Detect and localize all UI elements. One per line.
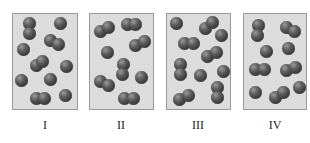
particle-sphere [59, 89, 72, 102]
particle-sphere [282, 42, 295, 55]
particle-sphere [187, 37, 200, 50]
particle-sphere [210, 46, 223, 59]
label-box-4: IV [255, 118, 295, 133]
particle-sphere [206, 16, 219, 29]
particle-sphere [277, 86, 290, 99]
particle-sphere [129, 18, 142, 31]
particle-sphere [289, 61, 302, 74]
particle-sphere [54, 17, 67, 30]
particle-sphere [101, 46, 114, 59]
particle-sphere [127, 92, 140, 105]
label-box-2: II [101, 118, 141, 133]
particle-sphere [217, 65, 230, 78]
particle-sphere [211, 91, 224, 104]
particle-sphere [215, 29, 228, 42]
particle-sphere [251, 29, 264, 42]
particle-sphere [102, 79, 115, 92]
particle-sphere [36, 55, 49, 68]
particle-sphere [288, 25, 301, 38]
particle-sphere [23, 27, 36, 40]
particle-sphere [249, 86, 262, 99]
particle-sphere [174, 68, 187, 81]
particle-sphere [182, 89, 195, 102]
label-box-1: I [25, 118, 65, 133]
particle-sphere [170, 17, 183, 30]
label-box-3: III [178, 118, 218, 133]
particle-sphere [194, 69, 207, 82]
particle-sphere [116, 68, 129, 81]
particle-sphere [293, 81, 306, 94]
particle-sphere [60, 60, 73, 73]
particle-sphere [52, 38, 65, 51]
particle-sphere [44, 73, 57, 86]
particle-sphere [15, 74, 28, 87]
particle-sphere [138, 35, 151, 48]
particle-sphere [260, 45, 273, 58]
particle-sphere [102, 21, 115, 34]
particle-sphere [258, 63, 271, 76]
particle-sphere [38, 92, 51, 105]
particle-sphere [135, 71, 148, 84]
particle-sphere [17, 43, 30, 56]
